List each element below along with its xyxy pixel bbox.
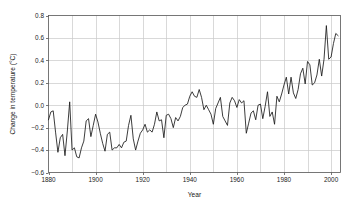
x-tick-label: 1920	[136, 176, 151, 183]
x-tick-label: 1960	[230, 176, 245, 183]
y-tick-label: 0.2	[35, 79, 44, 86]
y-tick-label: 0.0	[35, 102, 44, 109]
y-tick-label: −0.2	[31, 124, 44, 131]
y-tick-label: −0.4	[31, 146, 44, 153]
y-axis-title: Change in temperature (°C)	[9, 53, 17, 134]
x-tick-label: 1980	[277, 176, 292, 183]
y-tick-label: 0.8	[35, 12, 44, 19]
x-tick-label: 1880	[41, 176, 56, 183]
y-tick-label: 0.6	[35, 34, 44, 41]
x-tick-label: 1940	[183, 176, 198, 183]
x-tick-label: 1900	[88, 176, 103, 183]
temperature-anomaly-chart: 1880190019201940196019802000 −0.6−0.4−0.…	[0, 0, 355, 212]
y-tick-label: 0.4	[35, 57, 44, 64]
chart-canvas: 1880190019201940196019802000 −0.6−0.4−0.…	[0, 0, 355, 212]
x-axis-title: Year	[188, 191, 202, 198]
x-tick-label: 2000	[324, 176, 339, 183]
y-tick-label: −0.6	[31, 169, 44, 176]
